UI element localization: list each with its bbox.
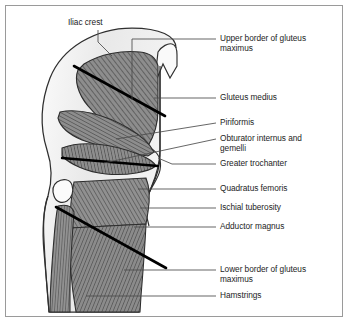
label-ischial-tuberosity: Ischial tuberosity (220, 203, 281, 213)
label-iliac-crest: Iliac crest (68, 18, 103, 28)
label-hamstrings: Hamstrings (220, 291, 261, 301)
leader-greater-trochanter (158, 158, 216, 164)
label-lower-border-gluteus-maximus: Lower border of gluteus maximus (220, 265, 306, 284)
label-adductor-magnus: Adductor magnus (220, 222, 284, 232)
label-upper-border-gluteus-maximus: Upper border of gluteus maximus (220, 34, 306, 53)
label-gluteus-medius: Gluteus medius (220, 93, 277, 103)
label-piriformis: Piriformis (220, 118, 254, 128)
figure-canvas: Iliac crest Upper border of gluteus maxi… (0, 0, 349, 323)
label-quadratus-femoris: Quadratus femoris (220, 184, 287, 194)
label-obturator-internus-and-gemelli: Obturator internus and gemelli (220, 134, 302, 153)
label-greater-trochanter: Greater trochanter (220, 159, 287, 169)
ischial-tuberosity-bone (53, 180, 73, 203)
